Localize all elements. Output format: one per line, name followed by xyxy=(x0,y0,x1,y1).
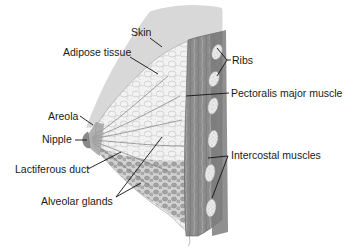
label-nipple: Nipple xyxy=(42,134,72,145)
label-intercostal-muscles: Intercostal muscles xyxy=(231,150,321,161)
label-ribs: Ribs xyxy=(232,55,253,66)
label-alveolar-glands: Alveolar glands xyxy=(41,196,113,207)
label-skin: Skin xyxy=(131,27,151,38)
label-pectoralis-major-muscle: Pectoralis major muscle xyxy=(231,88,342,99)
label-lactiferous-duct: Lactiferous duct xyxy=(15,164,89,175)
breast-anatomy-illustration xyxy=(0,0,355,248)
label-areola: Areola xyxy=(48,111,78,122)
label-adipose-tissue: Adipose tissue xyxy=(63,47,131,58)
